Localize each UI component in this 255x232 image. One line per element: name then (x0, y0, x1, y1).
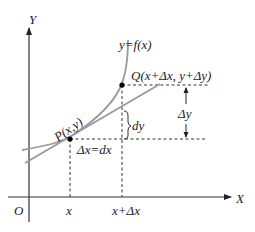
point-q (119, 82, 124, 87)
point-q-label: Q(x+Δx, y+Δy) (131, 68, 211, 83)
dy-label: dy (132, 118, 145, 133)
x-axis-label: X (235, 191, 245, 206)
y-axis-label: Y (29, 12, 38, 27)
curve-label: y=f(x) (117, 37, 152, 52)
delta-y-label: Δy (177, 106, 192, 121)
tick-x-dx-label: x+Δx (111, 203, 140, 218)
tick-x-label: x (65, 203, 72, 218)
dx-label: Δx=dx (76, 142, 112, 157)
dashed-guides (70, 85, 208, 197)
dy-brace (124, 111, 131, 139)
differential-diagram: Y X O y=f(x) Q(x+Δx, y+Δy) P(x,y) Δx=dx … (0, 0, 255, 232)
origin-label: O (14, 203, 24, 218)
